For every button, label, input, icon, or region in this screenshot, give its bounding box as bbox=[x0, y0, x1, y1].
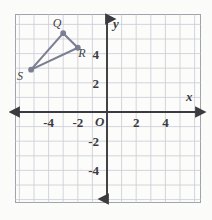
coordinate-plane-svg: -4-22442-2-4 QRS x y O bbox=[0, 0, 212, 220]
x-tick-label: 4 bbox=[162, 115, 169, 130]
y-tick-label: 2 bbox=[93, 76, 100, 91]
y-tick-label: -4 bbox=[88, 163, 99, 178]
vertex-label-q: Q bbox=[53, 16, 62, 30]
y-tick-label: 4 bbox=[93, 47, 100, 62]
x-axis-label: x bbox=[185, 89, 193, 104]
vertex-point-q bbox=[60, 30, 66, 36]
plot-border bbox=[16, 15, 201, 203]
y-tick-label: -2 bbox=[88, 134, 99, 149]
y-axis-label: y bbox=[111, 16, 119, 31]
coordinate-plane-figure: -4-22442-2-4 QRS x y O bbox=[0, 0, 212, 220]
vertex-point-s bbox=[28, 67, 34, 73]
x-tick-label: -4 bbox=[43, 115, 54, 130]
x-tick-label: 2 bbox=[133, 115, 140, 130]
vertex-label-r: R bbox=[77, 46, 86, 60]
origin-label: O bbox=[95, 114, 105, 129]
vertex-label-s: S bbox=[17, 69, 23, 83]
x-tick-label: -2 bbox=[72, 115, 83, 130]
